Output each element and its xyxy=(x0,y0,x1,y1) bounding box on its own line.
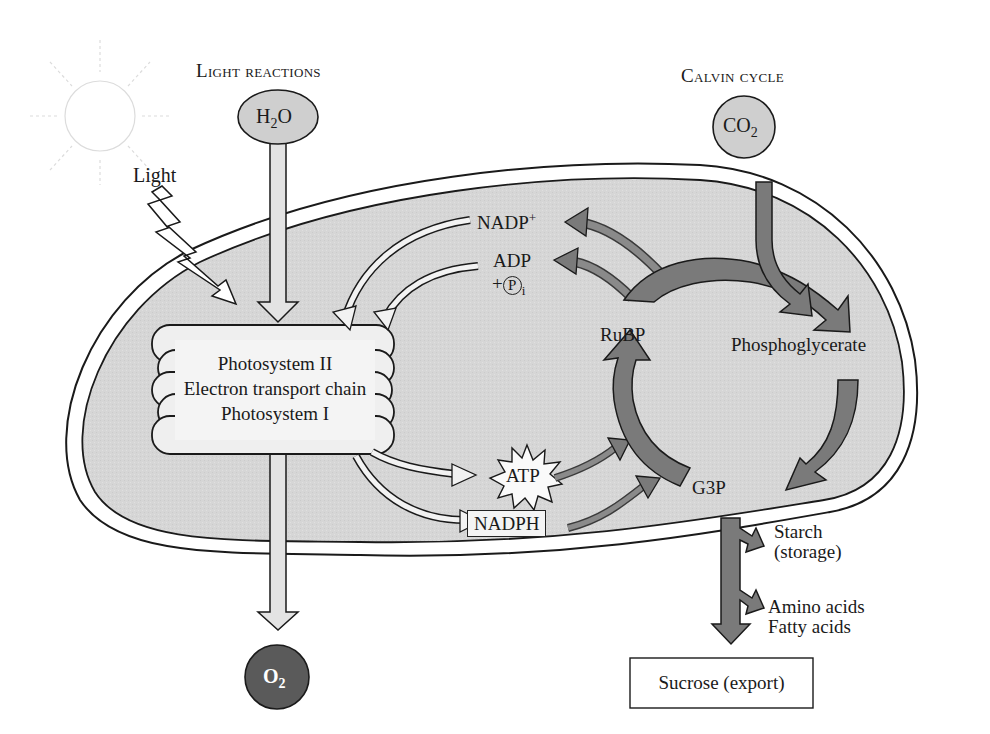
phosphoglycerate-label: Phosphoglycerate xyxy=(731,335,866,354)
starch-label: Starch (storage) xyxy=(774,522,842,562)
co2-label: CO2 xyxy=(723,115,758,140)
photosystem-ii-label: Photosystem II xyxy=(175,351,375,376)
electron-transport-chain-label: Electron transport chain xyxy=(175,376,375,401)
rubp-label: RuBP xyxy=(600,325,645,344)
light-label: Light xyxy=(133,165,176,185)
atp-label: ATP xyxy=(506,466,540,485)
thylakoid-labels: Photosystem II Electron transport chain … xyxy=(175,351,375,426)
adp-label: ADP xyxy=(493,251,531,270)
phosphate-label: +Pi xyxy=(492,274,525,297)
calvin-cycle-header: Calvin cycle xyxy=(681,66,784,85)
light-reactions-header: Light reactions xyxy=(196,61,321,80)
phosphate-circle-icon: P xyxy=(503,276,522,295)
water-label: H2O xyxy=(256,106,292,131)
g3p-label: G3P xyxy=(692,478,726,497)
g3p-output-arrow xyxy=(712,518,764,644)
nadp-plus-label: NADP+ xyxy=(477,211,536,232)
photosystem-i-label: Photosystem I xyxy=(175,401,375,426)
sucrose-label: Sucrose (export) xyxy=(630,673,813,692)
nadph-label: NADPH xyxy=(467,510,546,537)
amino-fatty-acids-label: Amino acids Fatty acids xyxy=(768,597,865,637)
oxygen-label: O2 xyxy=(263,666,286,691)
